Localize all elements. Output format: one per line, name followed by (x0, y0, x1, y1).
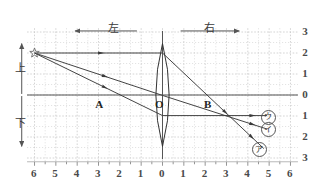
point-label-a: A (95, 99, 103, 110)
label-up-direction: 上 (14, 62, 25, 73)
x-tick-label: 2 (116, 168, 122, 179)
x-tick-label: 0 (159, 168, 165, 179)
label-right-direction: 右 (204, 23, 215, 34)
y-tick-label: 3 (302, 152, 308, 163)
x-tick-label: 1 (138, 168, 144, 179)
option-marker-a[interactable]: ア (252, 142, 267, 157)
y-tick-label: 1 (302, 110, 308, 121)
x-tick-label: 3 (223, 168, 229, 179)
x-tick-label: 4 (74, 168, 80, 179)
y-tick-label: 2 (302, 131, 308, 142)
y-tick-label: 1 (302, 68, 308, 79)
label-down-direction: 下 (14, 117, 25, 128)
x-tick-label: 5 (266, 168, 272, 179)
x-tick-label: 4 (244, 168, 250, 179)
point-label-o: O (155, 99, 164, 110)
y-tick-label: 0 (302, 89, 308, 100)
x-tick-label: 6 (287, 168, 293, 179)
x-tick-label: 3 (95, 168, 101, 179)
x-tick-label: 2 (202, 168, 208, 179)
label-left-direction: 左 (108, 23, 119, 34)
x-tick-label: 5 (52, 168, 58, 179)
ray-lines (35, 51, 267, 148)
x-tick-label: 1 (180, 168, 186, 179)
ray-diagram-svg (0, 0, 325, 190)
option-marker-i[interactable]: イ (261, 122, 276, 137)
y-tick-label: 3 (302, 26, 308, 37)
figure-canvas: 左 右 上 下 A O B ウ イ ア 6543210123456 321012… (0, 0, 325, 190)
point-label-b: B (204, 99, 211, 110)
x-tick-label: 6 (31, 168, 37, 179)
y-tick-label: 2 (302, 47, 308, 58)
